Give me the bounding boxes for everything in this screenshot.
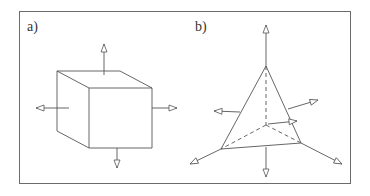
cube <box>57 71 152 148</box>
arrow-lower-left-icon <box>190 149 221 164</box>
tetrahedron <box>221 66 301 149</box>
arrow-lower-right-icon <box>301 143 342 164</box>
arrow-upper-left-icon <box>214 111 240 112</box>
diagram-canvas <box>0 0 370 196</box>
arrow-upper-right-icon <box>288 100 318 109</box>
